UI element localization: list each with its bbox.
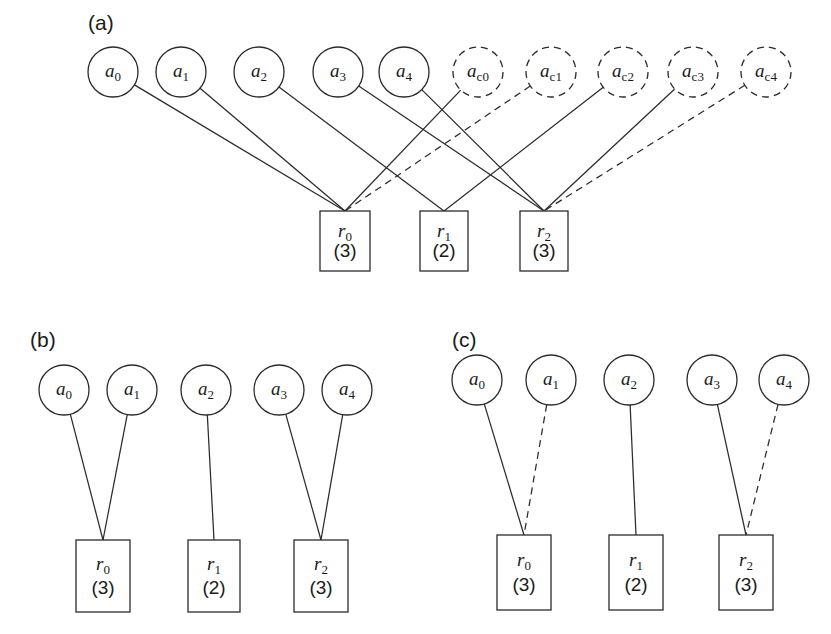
- resource-node-group: r0(3)r1(2)r2(3): [76, 540, 348, 612]
- resource-capacity-r2: (3): [532, 240, 555, 261]
- edge-a2-to-r1: [207, 415, 214, 540]
- edge-group: [134, 85, 744, 211]
- edge-a3-to-r2: [359, 86, 544, 211]
- panel-label-c: (c): [452, 328, 477, 351]
- edge-ac2-to-r1: [444, 87, 603, 211]
- resource-capacity-r2: (3): [734, 574, 757, 595]
- edge-a0-to-r0: [484, 404, 524, 535]
- panel-c: a0a1a2a3a4r0(3)r1(2)r2(3)(c): [452, 328, 809, 610]
- edge-group: [484, 404, 778, 535]
- edge-a3-to-r2: [286, 414, 321, 540]
- figure-container: a0a1a2a3a4ac0ac1ac2ac3ac4r0(3)r1(2)r2(3)…: [0, 0, 831, 634]
- edge-ac4-to-r2: [544, 85, 745, 211]
- agent-node-group: a0a1a2a3a4: [39, 365, 372, 415]
- resource-node-group: r0(3)r1(2)r2(3): [497, 535, 773, 610]
- edge-a4-to-r2: [422, 90, 544, 211]
- edge-a0-to-r0: [134, 85, 345, 211]
- edge-group: [70, 414, 342, 540]
- resource-capacity-r1: (2): [202, 577, 225, 598]
- edge-a1-to-r0: [524, 405, 547, 535]
- diagram-canvas: a0a1a2a3a4ac0ac1ac2ac3ac4r0(3)r1(2)r2(3)…: [0, 0, 831, 634]
- resource-capacity-r1: (2): [624, 574, 647, 595]
- edge-ac0-to-r0: [345, 90, 461, 211]
- edge-a1-to-r0: [200, 88, 345, 211]
- edge-a3-to-r2: [717, 404, 746, 535]
- panel-a: a0a1a2a3a4ac0ac1ac2ac3ac4r0(3)r1(2)r2(3)…: [88, 11, 791, 271]
- edge-a4-to-r2: [746, 404, 778, 535]
- edge-a1-to-r0: [103, 415, 127, 540]
- resource-capacity-r1: (2): [432, 240, 455, 261]
- resource-capacity-r0: (3): [333, 240, 356, 261]
- edge-a2-to-r1: [630, 405, 636, 535]
- panel-b: a0a1a2a3a4r0(3)r1(2)r2(3)(b): [30, 328, 372, 612]
- edge-a4-to-r2: [321, 415, 343, 540]
- edge-ac3-to-r2: [544, 89, 675, 211]
- edge-a2-to-r1: [279, 87, 444, 211]
- resource-node-group: r0(3)r1(2)r2(3): [320, 211, 568, 271]
- resource-capacity-r0: (3): [91, 577, 114, 598]
- agent-node-group: a0a1a2a3a4: [452, 355, 809, 405]
- resource-capacity-r0: (3): [512, 574, 535, 595]
- edge-a0-to-r0: [70, 414, 103, 540]
- panel-label-a: (a): [88, 11, 114, 34]
- agent-node-group: a0a1a2a3a4ac0ac1ac2ac3ac4: [88, 47, 791, 97]
- panel-label-b: (b): [30, 328, 56, 351]
- resource-capacity-r2: (3): [309, 577, 332, 598]
